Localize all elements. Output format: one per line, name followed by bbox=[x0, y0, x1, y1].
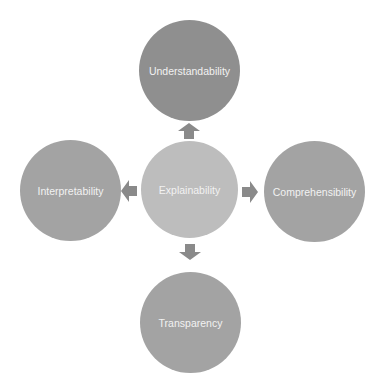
node-label: Understandability bbox=[149, 65, 230, 77]
node-label: Interpretability bbox=[38, 185, 104, 197]
node-label: Explainability bbox=[159, 184, 220, 196]
node-label: Comprehensibility bbox=[273, 186, 356, 198]
node-understandability: Understandability bbox=[139, 20, 240, 121]
diagram: Understandability Interpretability Expla… bbox=[0, 0, 377, 383]
arrow-right-icon bbox=[242, 181, 258, 203]
node-label: Transparency bbox=[159, 317, 223, 329]
arrow-up-icon bbox=[178, 123, 200, 139]
node-interpretability: Interpretability bbox=[20, 140, 121, 241]
node-comprehensibility: Comprehensibility bbox=[264, 141, 365, 242]
arrow-left-icon bbox=[121, 180, 137, 202]
node-transparency: Transparency bbox=[140, 272, 241, 373]
arrow-down-icon bbox=[179, 244, 201, 260]
node-explainability-center: Explainability bbox=[141, 141, 238, 238]
